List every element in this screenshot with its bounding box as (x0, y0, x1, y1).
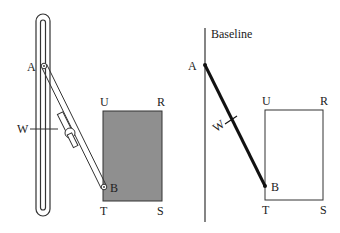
label-b-right: B (271, 181, 279, 193)
label-a-right: A (188, 60, 197, 72)
label-t-left: T (100, 205, 107, 217)
label-u-left: U (100, 96, 109, 108)
slotted-track (36, 14, 50, 216)
label-b-left: B (110, 182, 118, 194)
label-r-left: R (157, 96, 165, 108)
point-b-right (263, 184, 267, 188)
label-s-right: S (320, 204, 327, 216)
linkage-bar (42, 64, 106, 189)
label-r-right: R (320, 95, 328, 107)
weight-w-clamp-icon (57, 112, 78, 148)
diagram-canvas (0, 0, 340, 233)
label-s-left: S (157, 205, 164, 217)
baseline-label: Baseline (211, 28, 252, 40)
label-w-left: W (17, 123, 28, 135)
label-u-right: U (262, 95, 271, 107)
label-a-left: A (27, 61, 36, 73)
label-t-right: T (262, 204, 269, 216)
point-a-right (203, 63, 207, 67)
